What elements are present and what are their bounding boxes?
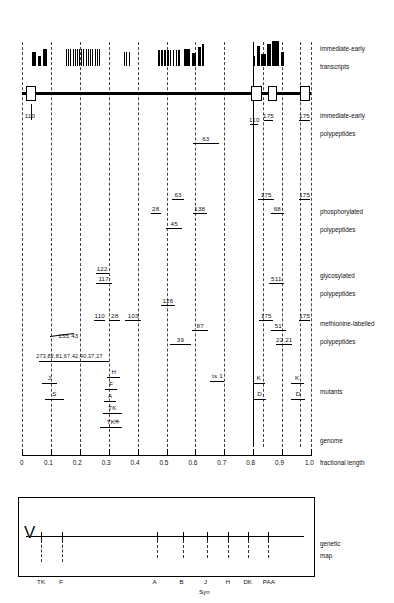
transcript-band bbox=[267, 44, 271, 66]
row-label-phosphorylated: phosphorylated bbox=[320, 208, 363, 215]
glyco-line bbox=[269, 283, 283, 284]
transcript-band bbox=[83, 49, 84, 66]
gridline-0.1 bbox=[51, 42, 52, 447]
genetic-map-label-J: J bbox=[204, 578, 207, 585]
genetic-tick-PAA bbox=[268, 532, 269, 540]
mutant-label: J bbox=[44, 374, 54, 381]
genetic-tick-DK bbox=[248, 532, 249, 540]
gridline-0.2 bbox=[80, 42, 81, 447]
transcript-band bbox=[92, 49, 93, 66]
genetic-leader bbox=[183, 540, 184, 558]
genetic-leader bbox=[248, 540, 249, 558]
genetic-leader bbox=[41, 540, 42, 562]
transcript-band bbox=[161, 50, 163, 66]
mutant-line bbox=[100, 427, 122, 428]
row-label-phosphorylated-2: polypeptides bbox=[320, 226, 355, 233]
transcript-band bbox=[68, 49, 69, 66]
transcript-band bbox=[88, 49, 89, 66]
genetic-tick-Syn bbox=[207, 532, 208, 540]
ie-poly-line bbox=[250, 124, 258, 125]
met-line bbox=[170, 344, 191, 345]
met-line bbox=[259, 320, 273, 321]
mutant-label: K bbox=[254, 374, 264, 381]
gridline-0.962 bbox=[300, 42, 301, 447]
genetic-tick-TK bbox=[41, 532, 42, 540]
axis-title: fractional length bbox=[320, 459, 364, 466]
axis-tick bbox=[167, 449, 168, 456]
met-line bbox=[125, 320, 141, 321]
met-line bbox=[161, 305, 175, 306]
transcript-band bbox=[253, 56, 255, 66]
genetic-leader bbox=[228, 540, 229, 558]
axis-tick bbox=[80, 449, 81, 456]
genetic-map-line bbox=[26, 536, 304, 537]
axis-tick bbox=[109, 449, 110, 456]
mutant-line bbox=[253, 383, 265, 384]
gridline-0.9 bbox=[282, 42, 283, 447]
genome-box bbox=[300, 86, 310, 101]
genetic-tick-H bbox=[228, 532, 229, 540]
row-label-transcripts: immediate-early bbox=[320, 45, 365, 52]
transcript-band bbox=[90, 49, 91, 66]
axis-tick bbox=[253, 449, 254, 456]
tk-star-icon: ✳ bbox=[114, 418, 120, 426]
transcript-band bbox=[257, 46, 260, 66]
glyco-label: 511 bbox=[267, 275, 285, 282]
transcript-band bbox=[66, 49, 67, 66]
ie-poly-label-110: 110 bbox=[25, 112, 35, 119]
axis-tick-label: 0.9 bbox=[275, 459, 284, 466]
ie-poly-line bbox=[264, 120, 274, 121]
genome-box bbox=[251, 86, 262, 101]
genome-box bbox=[26, 86, 37, 101]
met-line bbox=[39, 361, 108, 362]
axis-tick bbox=[51, 449, 52, 456]
mutant-label: H bbox=[109, 368, 119, 375]
met-label: 103 bbox=[124, 312, 142, 319]
transcript-band bbox=[124, 52, 125, 66]
row-label-ie-polypeptides: immediate-early bbox=[320, 112, 365, 119]
mutant-line bbox=[291, 399, 305, 400]
glyco-label: 117 bbox=[95, 275, 113, 282]
met-label: 175 bbox=[257, 312, 275, 319]
row-label-methionine-2: polypeptides bbox=[320, 338, 355, 345]
mutant-line bbox=[291, 383, 304, 384]
transcript-band bbox=[81, 49, 82, 66]
phospho-label: 28 bbox=[147, 205, 165, 212]
transcript-band bbox=[97, 49, 98, 66]
phospho-label: 45 bbox=[165, 220, 183, 227]
axis-tick-label: 0.2 bbox=[73, 459, 82, 466]
mutant-line bbox=[253, 399, 266, 400]
axis-tick bbox=[282, 449, 283, 456]
transcript-band bbox=[79, 49, 80, 66]
axis-tick bbox=[138, 449, 139, 456]
row-label-genome: genome bbox=[320, 437, 343, 444]
met-label: 22,21 bbox=[275, 336, 293, 343]
axis-tick-label: 0.5 bbox=[160, 459, 169, 466]
row-label-glycosylated-2: polypeptides bbox=[320, 290, 355, 297]
axis-tick-label: 0 bbox=[20, 459, 24, 466]
genome-box bbox=[268, 86, 276, 101]
genetic-map-label-TK: TK bbox=[37, 578, 45, 585]
transcript-band bbox=[86, 49, 87, 66]
transcript-band bbox=[129, 52, 130, 66]
mutant-label: S bbox=[50, 390, 60, 397]
row-label-geneticmap-2: map bbox=[320, 552, 332, 559]
genetic-leader bbox=[207, 540, 208, 558]
transcript-band bbox=[192, 53, 196, 66]
phospho-label: 175 bbox=[296, 191, 314, 198]
genetic-map-label-Syn: Syn bbox=[199, 588, 210, 595]
ie-poly-label: 175 bbox=[295, 112, 313, 119]
v-marker: V bbox=[24, 524, 35, 541]
transcript-band bbox=[75, 49, 76, 66]
met-label: 175 bbox=[296, 312, 314, 319]
transcript-band bbox=[43, 49, 47, 66]
phospho-line bbox=[193, 213, 207, 214]
gridline-0.833 bbox=[263, 42, 264, 447]
glyco-line bbox=[96, 273, 109, 274]
transcript-band bbox=[173, 50, 175, 66]
row-label-ie-polypeptides-2: polypeptides bbox=[320, 130, 355, 137]
phospho-label: 63 bbox=[169, 191, 187, 198]
axis-tick-label: 0.7 bbox=[217, 459, 226, 466]
genetic-map-label-H: H bbox=[226, 578, 230, 585]
met-label: 126 bbox=[159, 297, 177, 304]
